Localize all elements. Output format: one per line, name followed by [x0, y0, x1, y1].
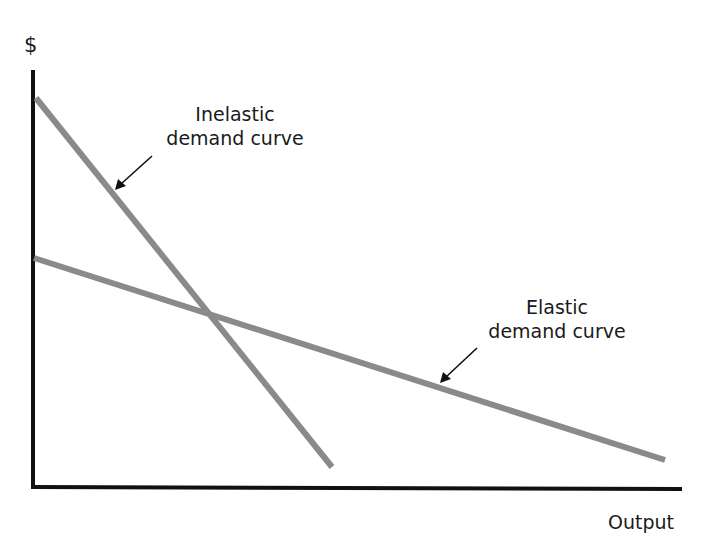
elastic-demand-curve [34, 258, 665, 460]
inelastic-demand-curve [36, 98, 332, 467]
inelastic-label-line2: demand curve [160, 126, 310, 150]
x-axis-label: Output [608, 510, 674, 534]
elastic-arrow-icon [440, 348, 477, 383]
y-axis-label: $ [24, 33, 37, 57]
elastic-label-line2: demand curve [482, 319, 632, 343]
demand-curves-chart [0, 0, 702, 540]
elastic-label: Elastic demand curve [482, 295, 632, 343]
elastic-label-line1: Elastic [482, 295, 632, 319]
inelastic-label-line1: Inelastic [160, 102, 310, 126]
x-axis [31, 487, 682, 489]
inelastic-label: Inelastic demand curve [160, 102, 310, 150]
inelastic-arrow-icon [115, 156, 152, 190]
